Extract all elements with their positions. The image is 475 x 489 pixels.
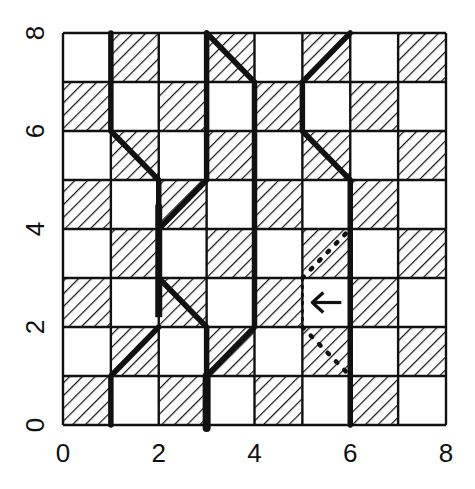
hatched-cell [63,180,111,229]
blank-cell [111,278,159,327]
hatched-cell [207,131,255,180]
hatched-cell [398,327,446,376]
blank-cell [350,229,398,278]
blank-cell [350,33,398,82]
blank-cell [302,82,350,131]
blank-cell [111,376,159,425]
hatched-cell [63,278,111,327]
blank-cell [255,327,303,376]
hatched-cell [398,229,446,278]
blank-cell [398,82,446,131]
blank-cell [63,229,111,278]
blank-cell [159,33,207,82]
blank-cell [159,327,207,376]
hatched-cell [63,376,111,425]
hatched-cell [255,180,303,229]
y-tick-label: 6 [20,124,50,138]
hatched-cell [207,229,255,278]
x-tick-label: 6 [343,438,357,468]
x-axis-ticks: 02468 [56,438,453,468]
blank-cell [255,131,303,180]
blank-cell [255,33,303,82]
x-tick-label: 0 [56,438,70,468]
hatched-cell [63,82,111,131]
blank-cell [350,131,398,180]
blank-cell [159,229,207,278]
hatched-cell [350,82,398,131]
blank-cell [111,82,159,131]
blank-cell [207,278,255,327]
blank-cell [398,376,446,425]
blank-cell [207,82,255,131]
blank-cell [207,180,255,229]
blank-cell [302,376,350,425]
y-tick-label: 8 [20,26,50,40]
hatched-cell [350,376,398,425]
y-tick-label: 2 [20,320,50,334]
blank-cell [398,180,446,229]
hatched-cell [111,33,159,82]
blank-cell [63,131,111,180]
y-tick-label: 4 [20,222,50,236]
hatched-cell [350,278,398,327]
hatched-cell [350,180,398,229]
hatched-cell [159,82,207,131]
blank-cell [255,229,303,278]
checkerboard-diagram: 02468 02468 [0,0,475,489]
hatched-cell [159,376,207,425]
hatched-cell [111,229,159,278]
x-tick-label: 4 [247,438,261,468]
hatched-cell [398,33,446,82]
blank-cell [207,376,255,425]
x-tick-label: 2 [152,438,166,468]
blank-cell [302,180,350,229]
y-axis-ticks: 02468 [20,26,50,432]
blank-cell [159,131,207,180]
blank-cell [398,278,446,327]
hatched-cell [255,278,303,327]
blank-cell [111,180,159,229]
blank-cell [63,33,111,82]
blank-cell [63,327,111,376]
hatched-cell [255,82,303,131]
x-tick-label: 8 [439,438,453,468]
hatched-cell [255,376,303,425]
hatched-cell [398,131,446,180]
blank-cell [350,327,398,376]
y-tick-label: 0 [20,418,50,432]
